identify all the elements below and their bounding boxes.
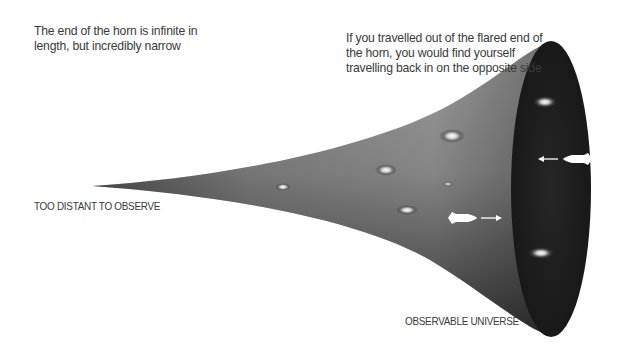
galaxy-icon xyxy=(396,205,418,215)
galaxy-icon xyxy=(375,164,397,176)
flared-opening xyxy=(511,41,591,337)
label-too-distant: TOO DISTANT TO OBSERVE xyxy=(34,200,160,212)
galaxy-icon xyxy=(528,247,554,259)
galaxy-icon xyxy=(533,96,557,108)
caption-narrow-end: The end of the horn is infinite in lengt… xyxy=(34,24,204,54)
galaxy-icon xyxy=(442,181,454,187)
galaxy-icon xyxy=(439,129,465,143)
horn xyxy=(92,42,548,335)
label-observable-universe: OBSERVABLE UNIVERSE xyxy=(405,315,519,327)
caption-flared-end: If you travelled out of the flared end o… xyxy=(346,31,546,76)
galaxy-icon xyxy=(275,183,291,191)
